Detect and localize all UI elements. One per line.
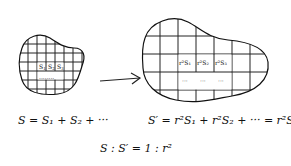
small-formula: S = S₁ + S₂ + ··· — [18, 114, 109, 127]
large-cell-1: r²S₁ — [179, 59, 191, 66]
arrow-right-icon — [100, 73, 140, 84]
large-region: r²S₁ r²S₂ r²S₃ ··· ··· ··· — [130, 0, 280, 120]
large-dots-3: ··· — [218, 77, 224, 84]
ratio-formula: S : S′ = 1 : r² — [100, 142, 172, 155]
large-formula: S′ = r²S₁ + r²S₂ + ··· = r²S — [148, 114, 291, 127]
large-cell-2: r²S₂ — [197, 59, 209, 66]
large-cell-3: r²S₃ — [215, 59, 227, 66]
diagram-canvas: S1 S2 S3 ........ r²S₁ r²S₂ r²S₃ — [0, 0, 291, 166]
large-dots-1: ··· — [182, 77, 188, 84]
small-region: S1 S2 S3 ........ — [10, 20, 90, 100]
small-dots: ........ — [39, 73, 54, 80]
large-dots-2: ··· — [200, 77, 206, 84]
